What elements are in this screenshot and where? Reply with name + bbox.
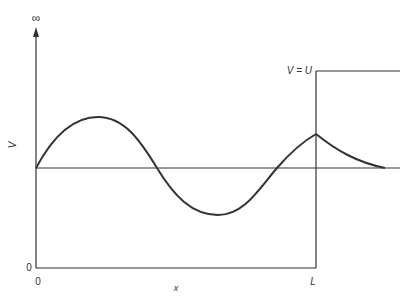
wavefunction-decay — [316, 134, 385, 168]
y-axis-infinity-label: ∞ — [32, 11, 41, 25]
y-axis-label: V — [7, 140, 18, 148]
y-origin-label: 0 — [26, 262, 32, 273]
wavefunction-oscillating — [36, 117, 316, 215]
x-axis-label: x — [173, 283, 179, 293]
barrier-label: V = U — [287, 65, 313, 76]
potential-well-diagram: ∞ V 0 0 L x V = U — [0, 0, 414, 298]
x-end-label: L — [310, 276, 316, 287]
x-origin-label: 0 — [35, 276, 41, 287]
y-axis-arrowhead — [33, 27, 39, 37]
